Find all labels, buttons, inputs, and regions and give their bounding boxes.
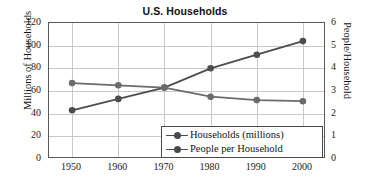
gridline-horizontal: [49, 68, 324, 69]
gridline-horizontal: [49, 114, 324, 115]
chart-legend: Households (millions) People per Househo…: [161, 126, 323, 158]
gridline-vertical: [72, 23, 73, 157]
series-line: [72, 83, 303, 101]
legend-item-people-per-household: People per Household: [166, 142, 318, 156]
y-tick-label-right: 5: [331, 40, 336, 50]
chart-figure: U.S. Households Millions of Households P…: [0, 0, 370, 187]
x-tick-label: 2000: [292, 162, 312, 172]
x-tick-label: 1980: [200, 162, 220, 172]
y-tick-label-left: 120: [26, 17, 41, 27]
series-people-per-household: [69, 80, 306, 105]
y-tick-label-left: 80: [31, 62, 41, 72]
chart-title: U.S. Households: [0, 5, 370, 17]
y-tick-label-left: 100: [26, 40, 41, 50]
gridline-horizontal: [49, 91, 324, 92]
y-axis-right-title: People/Household: [342, 0, 353, 129]
y-tick-label-right: 4: [331, 62, 336, 72]
y-tick-label-right: 1: [331, 130, 336, 140]
y-tick-label-right: 0: [331, 153, 336, 163]
y-tick-label-left: 20: [31, 130, 41, 140]
legend-label-households: Households (millions): [190, 129, 284, 141]
gridline-vertical: [118, 23, 119, 157]
legend-marker-people-icon: [166, 143, 188, 155]
series-households: [69, 38, 306, 114]
series-line: [72, 41, 303, 110]
gridline-horizontal: [49, 46, 324, 47]
legend-label-people-per-household: People per Household: [190, 143, 283, 155]
y-tick-label-right: 6: [331, 17, 336, 27]
x-tick-label: 1990: [246, 162, 266, 172]
y-tick-label-left: 0: [36, 153, 41, 163]
legend-item-households: Households (millions): [166, 128, 318, 142]
y-tick-label-right: 3: [331, 85, 336, 95]
y-tick-label-left: 60: [31, 85, 41, 95]
x-tick-label: 1950: [61, 162, 81, 172]
x-tick-label: 1960: [107, 162, 127, 172]
x-tick-label: 1970: [153, 162, 173, 172]
legend-marker-households-icon: [166, 129, 188, 141]
y-tick-label-left: 40: [31, 108, 41, 118]
y-tick-label-right: 2: [331, 108, 336, 118]
